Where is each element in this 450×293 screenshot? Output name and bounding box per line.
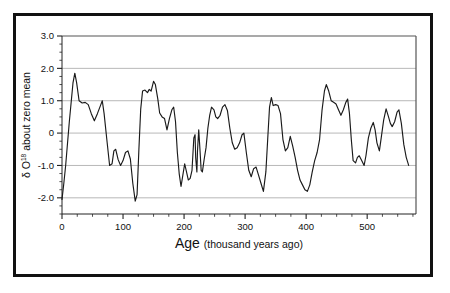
y-axis-title: δ O18 about zero mean [20,72,32,178]
x-tick-label: 400 [298,221,314,232]
x-tick-label: 200 [176,221,192,232]
figure-container: -2.0-1.001.02.03.00100200300400500Age (t… [0,0,450,293]
y-tick-label: 0 [49,127,54,138]
x-axis-title-main: Age [175,235,204,251]
x-tick-label: 500 [359,221,375,232]
figure-frame: -2.0-1.001.02.03.00100200300400500Age (t… [13,13,433,277]
y-tick-label: 1.0 [41,95,54,106]
x-tick-label: 300 [237,221,253,232]
x-tick-label: 100 [115,221,131,232]
y-tick-label: 2.0 [41,63,54,74]
x-axis-title-sub: (thousand years ago) [204,238,303,250]
y-tick-label: -2.0 [38,192,54,203]
x-tick-label: 0 [59,221,64,232]
y-axis-title-prefix: δ O [20,161,32,178]
x-axis-title: Age (thousand years ago) [175,235,303,251]
chart-plot: -2.0-1.001.02.03.00100200300400500Age (t… [16,16,430,274]
data-series-line [62,73,409,201]
y-tick-label: 3.0 [41,30,54,41]
y-axis-title-suffix: about zero mean [20,72,32,154]
y-tick-label: -1.0 [38,160,54,171]
